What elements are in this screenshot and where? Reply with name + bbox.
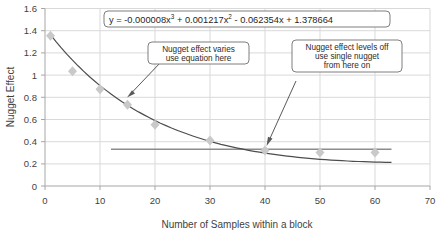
equation-annotation: y = -0.000008x3 + 0.001217x2 - 0.062354x… bbox=[104, 11, 390, 27]
chart-canvas: 1.6 1.4 1.2 1 0.8 0.6 0.4 0.2 0 0 10 20 … bbox=[0, 0, 441, 238]
x-tick-label: 10 bbox=[95, 195, 106, 206]
x-tick-label: 60 bbox=[370, 195, 381, 206]
x-tick-label: 50 bbox=[315, 195, 326, 206]
callout-left: Nugget effect varies use equation here bbox=[148, 42, 249, 64]
x-axis-title: Number of Samples within a block bbox=[161, 219, 313, 230]
y-tick-label: 1.6 bbox=[24, 3, 37, 14]
callout-right-line-2: use single nugget bbox=[315, 52, 380, 61]
y-tick-label: 0.8 bbox=[24, 92, 37, 103]
x-tick-label: 40 bbox=[260, 195, 271, 206]
x-tick-label: 30 bbox=[205, 195, 216, 206]
y-tick-label: 1.4 bbox=[24, 25, 37, 36]
callout-left-line-2: use equation here bbox=[166, 54, 232, 63]
y-tick-label: 0.6 bbox=[24, 114, 37, 125]
callout-right-line-3: from here on bbox=[324, 61, 371, 70]
y-tick-label: 0.2 bbox=[24, 158, 37, 169]
y-tick-label: 1.2 bbox=[24, 47, 37, 58]
equation-text: y = -0.000008x3 + 0.001217x2 - 0.062354x… bbox=[109, 13, 333, 24]
callout-right: Nugget effect levels off use single nugg… bbox=[292, 40, 402, 72]
y-tick-label: 1 bbox=[32, 70, 37, 81]
y-tick-label: 0 bbox=[32, 181, 37, 192]
x-tick-label: 70 bbox=[425, 195, 436, 206]
nugget-effect-chart: 1.6 1.4 1.2 1 0.8 0.6 0.4 0.2 0 0 10 20 … bbox=[0, 0, 441, 238]
y-tick-label: 0.4 bbox=[24, 136, 37, 147]
y-axis-title: Nugget Effect bbox=[5, 67, 16, 128]
callout-right-line-1: Nugget effect levels off bbox=[306, 43, 390, 52]
callout-left-line-1: Nugget effect varies bbox=[162, 45, 235, 54]
x-tick-label: 0 bbox=[42, 195, 47, 206]
x-tick-label: 20 bbox=[150, 195, 161, 206]
